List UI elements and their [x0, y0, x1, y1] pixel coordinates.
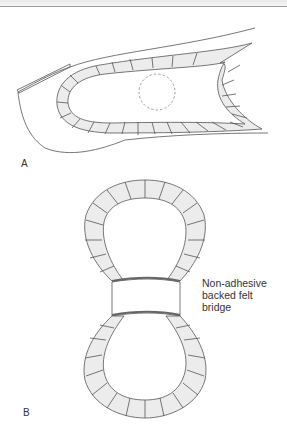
callout-line-1: Non-adhesive [202, 277, 267, 289]
felt-bridge [112, 278, 180, 316]
panel-label-b: B [23, 407, 30, 418]
callout-line-3: bridge [202, 301, 267, 313]
lesion-dashed-circle [139, 74, 175, 110]
diagram-canvas [0, 0, 287, 431]
bridge-callout: Non-adhesive backed felt bridge [202, 277, 267, 313]
crescent-pad [57, 43, 262, 135]
ring-pad-bottom [84, 316, 206, 418]
ring-pad-top [85, 180, 206, 281]
toe-outline [17, 28, 268, 153]
callout-line-2: backed felt [202, 289, 267, 301]
panel-label-a: A [21, 158, 28, 169]
